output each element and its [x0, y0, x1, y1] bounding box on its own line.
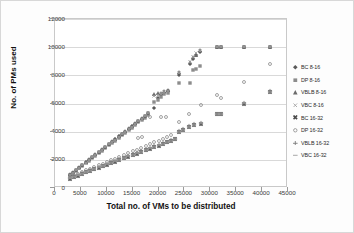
gridline: [55, 160, 286, 161]
y-axis-tick-mark: [50, 74, 54, 75]
x-axis-tick-mark: [158, 187, 159, 191]
y-axis-tick-label: 8000: [19, 71, 65, 78]
legend-marker-icon: [291, 103, 300, 108]
legend-item-label: DP 16-32: [300, 127, 323, 133]
y-axis-tick-mark: [50, 18, 54, 19]
legend-marker-icon: [291, 90, 300, 95]
x-axis-tick-mark: [261, 187, 262, 191]
y-axis-tick-label: 6000: [19, 99, 65, 106]
y-axis-tick-mark: [50, 46, 54, 47]
legend-item-label: DP 8-16: [300, 77, 320, 83]
legend-marker-icon: [291, 141, 300, 146]
y-axis-tick-mark: [50, 103, 54, 104]
x-axis-title: Total no. of VMs to be distributed: [41, 202, 301, 211]
legend-item: VBLB 8-16: [291, 86, 354, 99]
legend-item: DP 16-32: [291, 124, 354, 137]
x-axis-tick-mark: [80, 187, 81, 191]
legend-marker-icon: [291, 115, 300, 120]
legend-marker-icon: [291, 128, 300, 133]
x-axis-tick-mark: [132, 187, 133, 191]
chart-figure: No. of PMs used Total no. of VMs to be d…: [0, 0, 354, 233]
legend-marker-icon: [291, 78, 300, 83]
legend-item: BC 16-32: [291, 111, 354, 124]
x-axis-tick-mark: [106, 187, 107, 191]
y-axis-tick-label: 4000: [19, 127, 65, 134]
legend-item: DP 8-16: [291, 74, 354, 87]
legend-item: VBLB 16-32: [291, 137, 354, 150]
chart-legend: BC 8-16DP 8-16VBLB 8-16VBC 8-16BC 16-32D…: [291, 61, 354, 162]
legend-item-label: BC 16-32: [300, 115, 323, 121]
legend-marker-icon: [291, 65, 300, 70]
gridline: [55, 47, 286, 48]
y-axis-tick-mark: [50, 131, 54, 132]
gridline: [55, 75, 286, 76]
y-axis-tick-mark: [50, 159, 54, 160]
legend-marker-icon: [291, 153, 300, 158]
legend-item-label: VBC 16-32: [300, 152, 326, 158]
legend-item: BC 8-16: [291, 61, 354, 74]
x-axis-tick-mark: [235, 187, 236, 191]
x-axis-tick-mark: [183, 187, 184, 191]
gridline: [55, 19, 286, 20]
x-axis-tick-mark: [209, 187, 210, 191]
y-axis-title: No. of PMs used: [9, 18, 18, 138]
legend-item: VBC 16-32: [291, 149, 354, 162]
legend-item-label: VBC 8-16: [300, 102, 324, 108]
plot-area: [54, 18, 287, 187]
gridline: [55, 132, 286, 133]
x-axis-tick-mark: [54, 187, 55, 191]
y-axis-tick-label: 2000: [19, 155, 65, 162]
y-axis-tick-label: 12000: [19, 15, 65, 22]
x-axis-tick-mark: [287, 187, 288, 191]
legend-item-label: BC 8-16: [300, 64, 320, 70]
gridline: [55, 104, 286, 105]
y-axis-tick-label: 10000: [19, 43, 65, 50]
legend-item-label: VBLB 16-32: [300, 140, 329, 146]
legend-item: VBC 8-16: [291, 99, 354, 112]
legend-item-label: VBLB 8-16: [300, 89, 326, 95]
